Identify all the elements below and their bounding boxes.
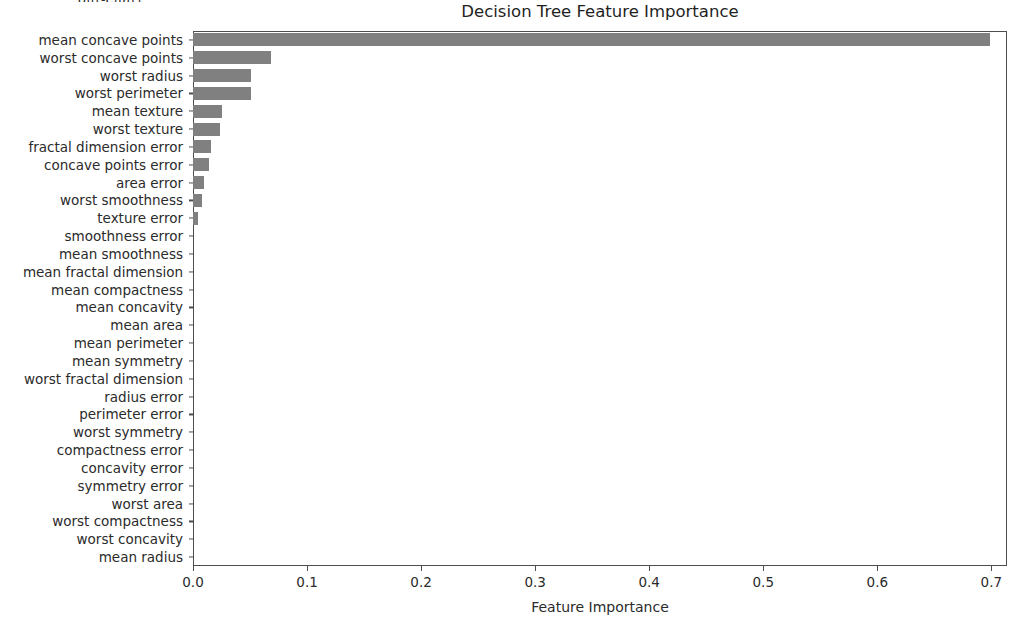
y-tick-mark: [189, 182, 194, 183]
y-tick-label: worst symmetry: [73, 424, 183, 440]
x-tick-mark: [763, 566, 764, 571]
y-tick-mark: [189, 236, 194, 237]
y-tick-label: worst fractal dimension: [24, 371, 183, 387]
y-tick-label: worst radius: [100, 68, 183, 84]
y-tick-mark: [189, 93, 194, 94]
y-tick-label: worst smoothness: [60, 192, 183, 208]
x-tick-label: 0.5: [753, 574, 774, 590]
y-tick-label: perimeter error: [79, 406, 183, 422]
x-tick-label: 0.1: [296, 574, 317, 590]
y-tick-mark: [189, 378, 194, 379]
y-tick-mark: [189, 414, 194, 415]
y-tick-mark: [189, 360, 194, 361]
y-tick-mark: [189, 432, 194, 433]
y-tick-label: mean concavity: [75, 299, 183, 315]
y-tick-label: smoothness error: [65, 228, 183, 244]
x-tick-label: 0.2: [410, 574, 431, 590]
x-tick-label: 0.3: [524, 574, 545, 590]
y-tick-label: mean area: [110, 317, 183, 333]
y-tick-label: worst concave points: [40, 50, 183, 66]
y-tick-label: mean texture: [92, 103, 183, 119]
matplotlib-figure: Decision Tree Feature Importance mean co…: [0, 0, 1035, 621]
y-tick-label: worst area: [111, 496, 183, 512]
x-tick-mark: [421, 566, 422, 571]
y-tick-mark: [189, 396, 194, 397]
y-tick-label: fractal dimension error: [28, 139, 183, 155]
y-tick-mark: [189, 111, 194, 112]
y-tick-mark: [189, 146, 194, 147]
plot-axes-frame: [193, 31, 1007, 566]
y-tick-label: mean concave points: [38, 32, 183, 48]
y-tick-label: area error: [116, 175, 183, 191]
x-tick-label: 0.0: [182, 574, 203, 590]
y-tick-mark: [189, 164, 194, 165]
y-tick-label: concave points error: [44, 157, 183, 173]
y-tick-mark: [189, 503, 194, 504]
x-tick-mark: [991, 566, 992, 571]
x-tick-label: 0.4: [638, 574, 659, 590]
y-tick-label: texture error: [97, 210, 183, 226]
y-tick-mark: [189, 218, 194, 219]
y-tick-label: mean symmetry: [72, 353, 183, 369]
x-tick-mark: [307, 566, 308, 571]
y-tick-mark: [189, 75, 194, 76]
y-tick-label: mean radius: [99, 549, 183, 565]
y-tick-mark: [189, 289, 194, 290]
y-tick-mark: [189, 521, 194, 522]
y-tick-label: worst perimeter: [75, 85, 183, 101]
y-tick-label: mean perimeter: [74, 335, 183, 351]
y-tick-label: symmetry error: [78, 478, 183, 494]
y-tick-label: worst compactness: [52, 513, 183, 529]
y-tick-label: mean compactness: [51, 282, 183, 298]
x-tick-label: 0.6: [867, 574, 888, 590]
y-tick-mark: [189, 450, 194, 451]
y-tick-mark: [189, 485, 194, 486]
y-tick-mark: [189, 539, 194, 540]
y-tick-mark: [189, 271, 194, 272]
y-tick-mark: [189, 200, 194, 201]
y-tick-label: worst concavity: [77, 531, 183, 547]
x-axis-title: Feature Importance: [193, 599, 1007, 615]
y-tick-mark: [189, 325, 194, 326]
y-tick-label: concavity error: [81, 460, 183, 476]
y-tick-mark: [189, 253, 194, 254]
y-tick-mark: [189, 343, 194, 344]
y-tick-mark: [189, 39, 194, 40]
y-tick-label: mean smoothness: [59, 246, 183, 262]
y-tick-mark: [189, 57, 194, 58]
y-tick-label: mean fractal dimension: [23, 264, 183, 280]
y-tick-mark: [189, 467, 194, 468]
x-tick-mark: [193, 566, 194, 571]
y-tick-mark: [189, 129, 194, 130]
x-tick-mark: [535, 566, 536, 571]
x-tick-label: 0.7: [981, 574, 1002, 590]
chart-title: Decision Tree Feature Importance: [193, 2, 1007, 21]
y-axis-tick-labels: mean concave pointsworst concave pointsw…: [0, 31, 193, 566]
x-tick-mark: [649, 566, 650, 571]
y-tick-label: compactness error: [57, 442, 183, 458]
y-tick-mark: [189, 307, 194, 308]
x-tick-mark: [877, 566, 878, 571]
y-tick-label: worst texture: [93, 121, 183, 137]
y-tick-mark: [189, 557, 194, 558]
y-tick-label: radius error: [104, 389, 183, 405]
